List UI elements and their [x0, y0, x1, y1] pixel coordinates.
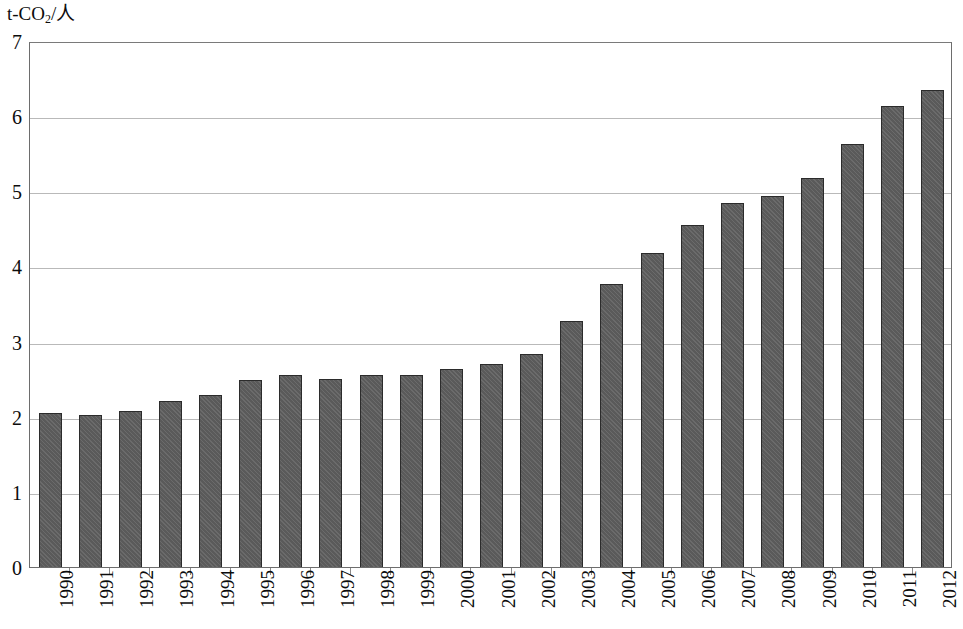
plot-area — [29, 42, 952, 568]
y-axis-unit-subscript: 2 — [45, 12, 51, 26]
bar — [801, 178, 824, 567]
x-axis-tick-label: 2006 — [699, 570, 718, 628]
x-axis-tick-label: 1995 — [258, 570, 277, 628]
x-axis-tick-labels: 1990199119921993199419951996199719981999… — [29, 570, 952, 629]
x-axis-tick-label: 2011 — [900, 570, 919, 628]
bar — [841, 144, 864, 567]
y-axis-tick-label: 5 — [12, 182, 22, 202]
x-axis-tick-label: 1996 — [298, 570, 317, 628]
bar — [761, 196, 784, 567]
x-axis-tick-label: 2004 — [619, 570, 638, 628]
bar — [119, 411, 142, 567]
bar — [360, 375, 383, 567]
x-axis-tick-label: 1993 — [177, 570, 196, 628]
bar — [79, 415, 102, 567]
x-axis-tick-label: 1997 — [338, 570, 357, 628]
y-axis-unit-suffix: /人 — [51, 3, 75, 24]
bar — [279, 375, 302, 567]
x-axis-tick-label: 2002 — [539, 570, 558, 628]
bars-layer — [30, 43, 951, 567]
y-axis-unit-prefix: t-CO — [7, 3, 45, 24]
x-axis-tick-label: 2003 — [579, 570, 598, 628]
y-axis-tick-label: 4 — [12, 257, 22, 277]
bar — [440, 369, 463, 567]
x-axis-tick-label: 2005 — [659, 570, 678, 628]
y-axis-tick-label: 6 — [12, 107, 22, 127]
x-axis-tick-label: 2010 — [860, 570, 879, 628]
y-axis-tick-label: 7 — [12, 32, 22, 52]
x-axis-tick-label: 2012 — [940, 570, 959, 628]
x-axis-tick-label: 1991 — [97, 570, 116, 628]
bar — [159, 401, 182, 567]
bar — [520, 354, 543, 567]
x-axis-tick-label: 2000 — [458, 570, 477, 628]
bar — [681, 225, 704, 567]
x-axis-tick-label: 2009 — [820, 570, 839, 628]
x-axis-tick-label: 1999 — [418, 570, 437, 628]
x-axis-tick-label: 1994 — [218, 570, 237, 628]
bar — [600, 284, 623, 567]
bar — [199, 395, 222, 567]
bar — [881, 106, 904, 567]
y-axis-unit-label: t-CO2/人 — [7, 3, 75, 27]
x-axis-tick-label: 1992 — [137, 570, 156, 628]
y-axis-tick-labels: 76543210 — [0, 42, 29, 568]
x-axis-tick-label: 2008 — [779, 570, 798, 628]
y-axis-tick-label: 3 — [12, 333, 22, 353]
x-axis-tick-label: 1998 — [378, 570, 397, 628]
bar — [480, 364, 503, 567]
bar — [319, 379, 342, 567]
x-axis-tick-label: 2007 — [739, 570, 758, 628]
bar-chart: t-CO2/人 76543210 19901991199219931994199… — [0, 0, 963, 629]
bar — [721, 203, 744, 567]
bar — [239, 380, 262, 567]
y-axis-tick-label: 2 — [12, 408, 22, 428]
x-axis-tick-label: 2001 — [499, 570, 518, 628]
bar — [921, 90, 944, 567]
bar — [400, 375, 423, 567]
bar — [641, 253, 664, 567]
x-axis-tick-label: 1990 — [57, 570, 76, 628]
y-axis-tick-label: 1 — [12, 483, 22, 503]
bar — [39, 413, 62, 567]
y-axis-tick-label: 0 — [12, 558, 22, 578]
bar — [560, 321, 583, 567]
